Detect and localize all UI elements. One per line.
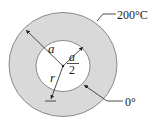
outer-temp-label: 200°C	[117, 8, 148, 22]
inner-radius-denominator: 2	[69, 63, 75, 77]
inner-temp-label: 0°	[125, 95, 136, 109]
outer-radius-label: a	[48, 41, 55, 56]
annulus-diagram: a a 2 r 200°C 0°	[0, 0, 160, 122]
inner-radius-numerator: a	[69, 50, 75, 64]
outer-temp-leader	[97, 14, 116, 21]
